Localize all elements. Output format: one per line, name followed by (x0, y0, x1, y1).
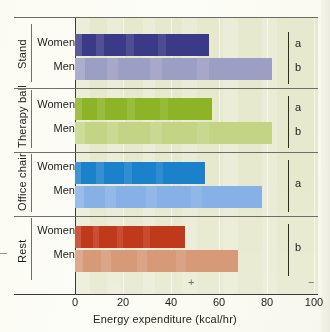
bar-stand-men (75, 58, 272, 80)
sig-label-therapy-ball-b: b (295, 125, 301, 137)
sig-label-stand-a: a (295, 37, 301, 49)
x-tick-label-0: 0 (72, 296, 78, 308)
plot-divider-3 (75, 216, 318, 217)
bar-therapy-ball-women (75, 98, 212, 120)
gridline-100 (314, 18, 315, 294)
category-label-gutter: Stand Women Men Therapy ball Women Men O… (14, 18, 75, 294)
plot-area: a b a b a b + − (75, 18, 318, 294)
series-label-office-chair-men: Men (31, 184, 75, 196)
x-axis-line (14, 294, 318, 295)
x-tick-label-80: 80 (261, 296, 273, 308)
x-axis-title: Energy expenditure (kcal/hr) (0, 313, 330, 325)
stray-minus-mark: − (308, 276, 314, 288)
bar-chart-figure: Stand Women Men Therapy ball Women Men O… (0, 0, 330, 332)
plot-divider-2 (75, 152, 318, 153)
margin-stub-line (0, 253, 7, 254)
series-label-rest-men: Men (31, 248, 75, 260)
series-label-stand-women: Women (31, 36, 75, 48)
bar-therapy-ball-men (75, 122, 272, 144)
sig-bracket-rest (288, 224, 289, 276)
category-label-therapy-ball: Therapy ball (16, 90, 29, 148)
bar-office-chair-women (75, 162, 205, 184)
series-label-rest-women: Women (31, 224, 75, 236)
page-edge-shadow (321, 0, 330, 332)
x-tick-label-60: 60 (213, 296, 225, 308)
bar-rest-men (75, 250, 238, 272)
sig-bracket-office-chair (288, 160, 289, 212)
category-label-rest: Rest (16, 224, 29, 278)
series-label-stand-men: Men (31, 60, 75, 72)
bar-office-chair-men (75, 186, 262, 208)
category-label-stand: Stand (16, 26, 29, 82)
sig-label-office-chair-a: a (295, 177, 301, 189)
series-label-office-chair-women: Women (31, 160, 75, 172)
bar-stand-women (75, 34, 209, 56)
bar-rest-women (75, 226, 185, 248)
sig-bracket-therapy-ball (288, 96, 289, 148)
x-tick-label-40: 40 (165, 296, 177, 308)
sig-label-stand-b: b (295, 61, 301, 73)
category-label-office-chair: Office chair (16, 152, 29, 212)
x-tick-label-20: 20 (117, 296, 129, 308)
stray-plus-mark: + (188, 276, 194, 288)
series-label-therapy-ball-men: Men (31, 122, 75, 134)
x-tick-label-100: 100 (305, 296, 323, 308)
sig-label-rest-b: b (295, 241, 301, 253)
series-label-therapy-ball-women: Women (31, 98, 75, 110)
sig-label-therapy-ball-a: a (295, 101, 301, 113)
plot-divider-1 (75, 88, 318, 89)
sig-bracket-stand (288, 32, 289, 84)
category-rule-stand (31, 24, 32, 82)
